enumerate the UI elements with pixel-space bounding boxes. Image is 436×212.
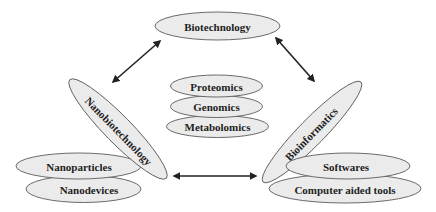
concept-diagram: Biotechnology Metabolomics Genomics Prot… (0, 0, 436, 212)
computer-aided-tools-label: Computer aided tools (294, 184, 396, 196)
arrow-biotech-nanobiotech (113, 41, 160, 82)
genomics-label: Genomics (193, 101, 240, 113)
proteomics-label: Proteomics (190, 81, 243, 93)
node-softwares: Softwares (286, 153, 410, 179)
node-nanoparticles: Nanoparticles (16, 153, 141, 179)
node-metabolomics: Metabolomics (167, 116, 269, 138)
biotechnology-label: Biotechnology (184, 21, 251, 33)
node-nanodevices: Nanodevices (26, 176, 141, 203)
node-proteomics: Proteomics (171, 75, 263, 97)
node-biotechnology: Biotechnology (155, 12, 280, 40)
node-genomics: Genomics (171, 96, 263, 118)
softwares-label: Softwares (323, 161, 370, 173)
nanoparticles-label: Nanoparticles (46, 161, 112, 173)
metabolomics-label: Metabolomics (185, 121, 252, 133)
arrow-biotech-bioinformatics (276, 38, 314, 81)
nanodevices-label: Nanodevices (60, 184, 119, 196)
